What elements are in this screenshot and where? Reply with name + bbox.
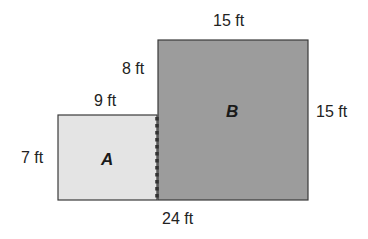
dimension-a-left: 7 ft [21,150,43,166]
dimension-b-left-upper: 8 ft [122,61,144,77]
dimension-bottom-total: 24 ft [162,211,193,227]
dimension-a-top: 9 ft [94,93,116,109]
dimension-b-top: 15 ft [213,13,244,29]
dimension-b-right: 15 ft [316,104,347,120]
region-b-label: B [226,103,238,120]
composite-figure-diagram: 15 ft 8 ft 9 ft 15 ft 7 ft 24 ft A B [0,0,368,239]
region-a-label: A [101,151,113,168]
diagram-shapes [0,0,368,239]
